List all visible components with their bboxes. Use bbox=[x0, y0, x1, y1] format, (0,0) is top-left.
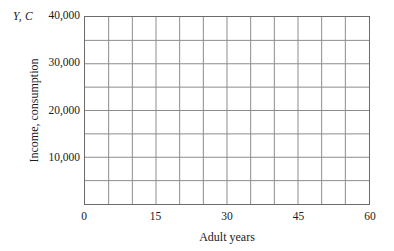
plot-area bbox=[84, 16, 370, 205]
grid-lines bbox=[85, 17, 369, 204]
x-tick-label: 45 bbox=[279, 209, 319, 223]
y-tick-label: 40,000 bbox=[34, 10, 80, 22]
x-tick-label: 60 bbox=[350, 209, 390, 223]
chart-figure: Y, C Income, consumption 10,00020,00030,… bbox=[0, 0, 394, 251]
y-tick-label: 20,000 bbox=[34, 105, 80, 117]
y-tick-label: 10,000 bbox=[34, 152, 80, 164]
y-tick-label: 30,000 bbox=[34, 57, 80, 69]
x-axis-title: Adult years bbox=[84, 230, 370, 245]
x-tick-label: 15 bbox=[136, 209, 176, 223]
x-tick-label-group: 015304560 bbox=[0, 209, 394, 229]
x-tick-label: 0 bbox=[64, 209, 104, 223]
x-tick-label: 30 bbox=[207, 209, 247, 223]
